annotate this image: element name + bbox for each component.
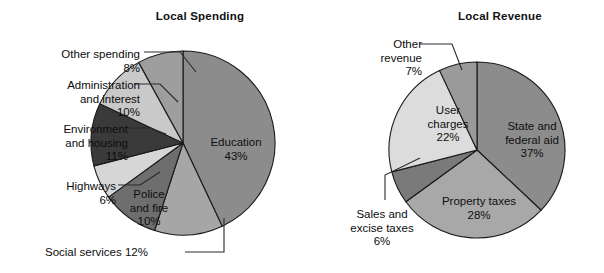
slice-label-other-revenue: Other revenue 7% — [330, 38, 422, 79]
slice-label-highways: Highways 6% — [12, 180, 116, 207]
slice-label-administration-and-interest: Administration and interest 10% — [6, 79, 140, 120]
slice-label-sales-and-excise-taxes: Sales and excise taxes 6% — [327, 208, 437, 249]
slice-value-police-and-fire: Police and fire 10% — [116, 188, 182, 229]
slice-label-other-spending: Other spending 8% — [18, 48, 140, 75]
slice-value-education: Education 43% — [196, 136, 276, 163]
slice-value-state-and-federal-aid: State and federal aid 37% — [494, 120, 570, 161]
figure-canvas: Local Spending Local Revenue Other spend… — [0, 0, 604, 273]
slice-label-social-services: Social services 12% — [45, 246, 205, 260]
slice-label-environment-and-housing: Environment and housing 11% — [6, 123, 128, 164]
slice-value-property-taxes: Property taxes 28% — [424, 195, 534, 222]
slice-value-user-charges: User charges 22% — [415, 104, 481, 145]
